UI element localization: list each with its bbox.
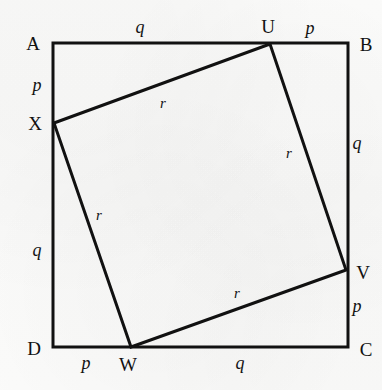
inner-side-label-r-wv: r	[234, 286, 240, 301]
segment-label-bottom-p: p	[82, 354, 91, 372]
inner-square-UVWX	[54, 44, 346, 347]
outer-square-path	[53, 43, 348, 347]
inner-side-label-r-uv: r	[286, 146, 292, 161]
vertex-label-u: U	[261, 17, 275, 36]
inner-side-label-r-xw: r	[96, 208, 102, 223]
segment-label-right-q: q	[353, 134, 362, 152]
vertex-label-c: C	[360, 340, 373, 359]
vertex-label-d: D	[27, 339, 41, 358]
vertex-label-b: B	[360, 35, 373, 54]
figure-canvas	[0, 0, 382, 390]
segment-label-right-p: p	[353, 297, 362, 315]
segment-label-left-p: p	[33, 76, 42, 94]
vertex-label-v: V	[356, 263, 370, 282]
inner-side-label-r-xu: r	[160, 96, 166, 111]
vertex-label-a: A	[26, 34, 40, 53]
segment-label-bottom-q: q	[236, 354, 245, 372]
segment-label-left-q: q	[33, 241, 42, 259]
geometry-figure: ABCDUVWX qpqpqpqp rrrr	[0, 0, 382, 390]
vertex-label-x: X	[28, 114, 42, 133]
outer-square-ABCD	[53, 43, 348, 347]
vertex-label-w: W	[119, 355, 137, 374]
inner-square-path	[54, 44, 346, 347]
segment-label-top-q: q	[136, 18, 145, 36]
segment-label-top-p: p	[306, 19, 315, 37]
